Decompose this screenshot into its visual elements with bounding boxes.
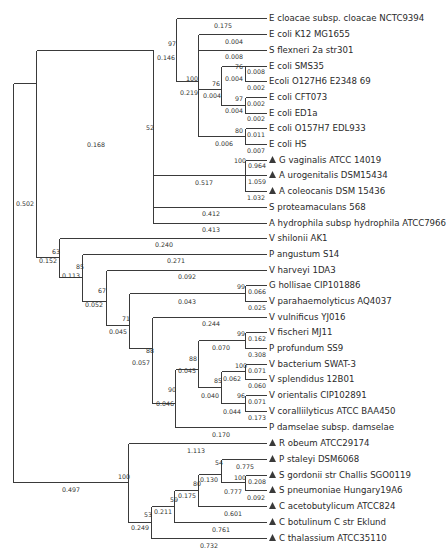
- branch-length-value: 0.043: [178, 298, 196, 305]
- bootstrap-values: 9710076769780521006385679971998888100859…: [52, 40, 247, 518]
- bootstrap-value: 100: [118, 473, 130, 480]
- leaf-label: V splendidus 12B01: [269, 374, 354, 384]
- bootstrap-value: 71: [122, 315, 130, 322]
- branch-length-value: 0.070: [212, 344, 230, 351]
- branch-length-value: 0.057: [132, 359, 150, 366]
- triangle-marker-icon: [269, 439, 276, 446]
- triangle-marker-icon: [269, 156, 276, 163]
- branch-length-value: 0.066: [248, 288, 266, 295]
- branch-length-value: 0.497: [62, 486, 80, 493]
- branch-length-value: 0.130: [200, 476, 218, 483]
- leaf-label: Ecoli O127H6 E2348 69: [269, 76, 371, 86]
- leaf-label: A urogenitalis DSM15434: [279, 170, 388, 180]
- branch-length-value: 0.761: [212, 526, 230, 533]
- leaf-label: C botulinum C str Eklund: [279, 517, 386, 527]
- branch-length-value: 0.052: [85, 301, 103, 308]
- branch-length-value: 0.060: [248, 382, 266, 389]
- leaf-label: P staleyi DSM6068: [279, 454, 359, 464]
- branch-length-value: 0.004: [203, 92, 221, 99]
- branch-length-value: 0.175: [178, 492, 196, 499]
- branch-length-value: 0.249: [131, 524, 149, 531]
- branch-length-value: 0.517: [195, 179, 213, 186]
- branch-length-value: 0.007: [247, 147, 265, 154]
- leaf-labels: E cloacae subsp. cloacae NCTC9394E coli …: [269, 13, 446, 543]
- leaf-label: R obeum ATCC29174: [279, 438, 370, 448]
- triangle-marker-icon: [269, 455, 276, 462]
- triangle-marker-icon: [269, 471, 276, 478]
- leaf-label: V vulnificus YJ016: [269, 312, 345, 322]
- bootstrap-value: 100: [186, 75, 198, 82]
- branch-length-value: 0.008: [247, 68, 265, 75]
- branch-length-value: 0.413: [202, 226, 220, 233]
- bootstrap-value: 99: [237, 330, 245, 337]
- leaf-label: E coli O157H7 EDL933: [269, 123, 366, 133]
- leaf-label: S proteamaculans 568: [269, 202, 366, 212]
- branch-length-value: 0.502: [16, 200, 34, 207]
- branch-length-value: 0.219: [180, 89, 198, 96]
- branch-length-value: 0.168: [87, 141, 105, 148]
- leaf-label: V bacterium SWAT-3: [269, 359, 356, 369]
- triangle-marker-icon: [269, 171, 276, 178]
- triangle-marker-icon: [269, 518, 276, 525]
- triangle-marker-icon: [269, 502, 276, 509]
- branch-length-value: 0.173: [248, 414, 266, 421]
- branch-length-value: 0.002: [247, 115, 265, 122]
- branch-length-value: 0.004: [225, 38, 243, 45]
- branch-length-value: 0.044: [223, 408, 241, 415]
- branch-length-value: 0.006: [215, 140, 233, 147]
- leaf-label: S gordonii str Challis SGO0119: [279, 470, 411, 480]
- leaf-label: E coli SMS35: [269, 61, 324, 71]
- branch-length-value: 0.271: [167, 257, 185, 264]
- triangle-marker-icon: [269, 187, 276, 194]
- bootstrap-value: 54: [215, 459, 223, 466]
- leaf-label: P profundum SS9: [269, 343, 343, 353]
- branch-length-value: 0.175: [214, 22, 232, 29]
- branch-length-value: 0.008: [225, 53, 243, 60]
- branch-length-value: 0.244: [202, 320, 220, 327]
- leaf-label: S pneumoniae Hungary19A6: [279, 485, 403, 495]
- branch-length-value: 0.308: [248, 351, 266, 358]
- bootstrap-value: 100: [234, 157, 246, 164]
- branch-length-value: 0.146: [157, 54, 175, 61]
- branch-length-value: 0.732: [200, 542, 218, 549]
- branch-length-value: 0.004: [225, 107, 243, 114]
- leaf-label: V harveyi 1DA3: [269, 265, 336, 275]
- bootstrap-value: 53: [144, 511, 152, 518]
- bootstrap-value: 76: [212, 80, 220, 87]
- triangle-marker-icon: [269, 534, 276, 541]
- triangle-marker-icon: [269, 486, 276, 493]
- bootstrap-value: 99: [237, 283, 245, 290]
- branch-length-value: 0.062: [223, 375, 241, 382]
- branch-lengths: 0.1750.0040.0080.1460.0080.0040.0020.219…: [16, 22, 266, 549]
- bootstrap-value: 90: [168, 386, 176, 393]
- bootstrap-value: 100: [235, 362, 247, 369]
- leaf-label: G vaginalis ATCC 14019: [279, 155, 381, 165]
- branch-length-value: 0.777: [224, 488, 242, 495]
- bootstrap-value: 85: [76, 263, 84, 270]
- branch-length-value: 1.032: [247, 194, 265, 201]
- bootstrap-value: 85: [214, 377, 222, 384]
- leaf-label: P damselae subsp. damselae: [269, 422, 394, 432]
- leaf-label: G hollisae CIP101886: [269, 280, 361, 290]
- bootstrap-value: 96: [237, 392, 245, 399]
- branch-length-value: 0.240: [155, 241, 173, 248]
- branch-length-value: 0.002: [247, 84, 265, 91]
- leaf-label: E coli CFT073: [269, 92, 327, 102]
- branch-length-value: 0.092: [247, 494, 265, 501]
- branch-length-value: 0.071: [248, 367, 266, 374]
- bootstrap-value: 97: [235, 95, 243, 102]
- bootstrap-value: 76: [235, 63, 243, 70]
- bootstrap-value: 52: [146, 124, 154, 131]
- phylogenetic-tree: E cloacae subsp. cloacae NCTC9394E coli …: [0, 0, 446, 558]
- leaf-label: E cloacae subsp. cloacae NCTC9394: [269, 13, 424, 23]
- leaf-label: V fischeri MJ11: [269, 327, 333, 337]
- branch-length-value: 0.045: [178, 367, 196, 374]
- leaf-label: V coralliilyticus ATCC BAA450: [269, 406, 396, 416]
- branch-length-value: 1.113: [187, 447, 205, 454]
- leaf-label: E coli K12 MG1655: [269, 29, 350, 39]
- bootstrap-value: 59: [170, 496, 178, 503]
- bootstrap-value: 67: [98, 287, 106, 294]
- branch-length-value: 0.208: [248, 478, 266, 485]
- branch-length-value: 0.775: [236, 463, 254, 470]
- leaf-label: S flexneri 2a str301: [269, 45, 353, 55]
